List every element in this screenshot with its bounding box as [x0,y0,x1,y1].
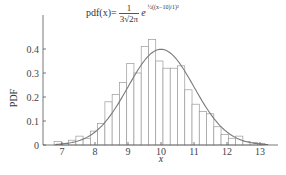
y-tick-label: 0.2 [27,92,40,103]
x-tick-label: 12 [222,146,232,157]
x-tick-label: 11 [189,146,199,157]
histogram-bar [112,95,119,145]
histogram-bars [54,39,265,145]
histogram-bar [83,138,90,145]
y-axis-label: PDF [8,88,19,107]
y-tick-label: 0.3 [27,68,40,79]
histogram-bar [228,138,235,145]
histogram-bar [178,66,185,145]
histogram-bar [207,114,214,145]
histogram-bar [185,90,192,145]
x-tick-label: 8 [93,146,98,157]
histogram-bar [134,73,141,145]
histogram-bar [141,47,148,145]
histogram-bar [156,61,163,145]
histogram-bar [192,104,199,145]
histogram-bar [127,63,134,145]
y-tick-label: 0.4 [27,44,40,55]
x-tick-label: 13 [255,146,265,157]
histogram-chart: 00.10.20.30.478910111213 x PDF [0,0,286,175]
y-tick-label: 0.1 [27,116,40,127]
histogram-bar [199,111,206,145]
histogram-bar [163,68,170,145]
histogram-bar [214,127,221,145]
x-tick-label: 7 [60,146,65,157]
x-tick-label: 9 [126,146,131,157]
y-tick-label: 0 [34,140,39,151]
histogram-bar [105,102,112,145]
histogram-bar [170,68,177,145]
x-axis-label: x [158,153,164,164]
